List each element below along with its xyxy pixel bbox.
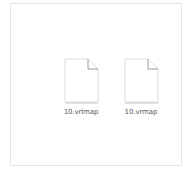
file-item-10-vrlmap[interactable]: 10.vrlmap bbox=[59, 58, 103, 116]
file-item-10-vrmap[interactable]: 10.vrmap bbox=[119, 58, 163, 116]
file-name-label: 10.vrmap bbox=[125, 108, 158, 116]
file-view-pane: 10.vrlmap 10.vrmap bbox=[10, 3, 182, 166]
blank-document-icon bbox=[123, 58, 159, 104]
file-name-label: 10.vrlmap bbox=[64, 108, 99, 116]
blank-document-icon bbox=[63, 58, 99, 104]
